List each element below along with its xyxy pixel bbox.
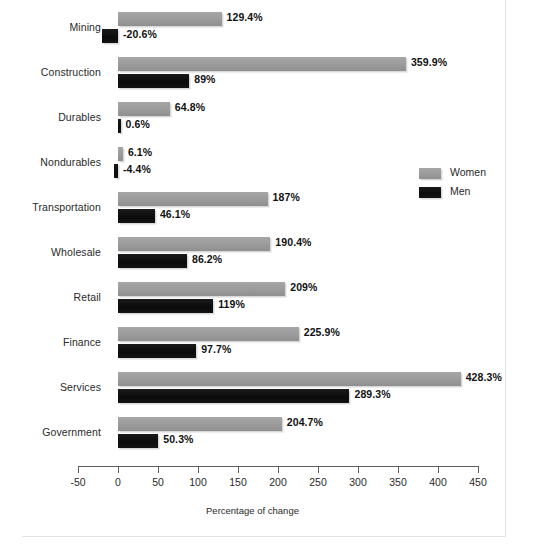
- bar-value-label: 129.4%: [227, 11, 263, 23]
- category-label: Construction: [0, 66, 101, 78]
- bar-value-label: 187%: [273, 191, 300, 203]
- chart-row: Finance225.9%97.7%: [0, 323, 505, 368]
- x-tick: [358, 466, 359, 473]
- category-label: Services: [0, 381, 101, 393]
- legend-label-women: Women: [450, 166, 486, 178]
- x-tick: [478, 466, 479, 473]
- category-label: Transportation: [0, 201, 101, 213]
- chart-row: Retail209%119%: [0, 278, 505, 323]
- chart-row: Durables64.8%0.6%: [0, 98, 505, 143]
- legend-label-men: Men: [450, 185, 470, 197]
- bar-women: [118, 192, 268, 206]
- x-tick-label: 400: [418, 476, 458, 488]
- bar-men: [118, 344, 196, 358]
- category-label: Government: [0, 426, 101, 438]
- bar-value-label: 204.7%: [287, 416, 323, 428]
- x-tick: [158, 466, 159, 473]
- bar-value-label: 97.7%: [201, 343, 231, 355]
- chart-figure: Mining129.4%-20.6%Construction359.9%89%D…: [0, 0, 533, 552]
- chart-row: Mining129.4%-20.6%: [0, 8, 505, 53]
- x-tick: [278, 466, 279, 473]
- category-label: Retail: [0, 291, 101, 303]
- bar-women: [118, 147, 123, 161]
- bar-men: [118, 119, 121, 133]
- x-tick: [398, 466, 399, 473]
- x-axis-title: Percentage of change: [0, 505, 505, 516]
- x-tick-label: 150: [218, 476, 258, 488]
- bar-women: [118, 102, 170, 116]
- bar-men: [118, 299, 213, 313]
- bar-value-label: 225.9%: [304, 326, 340, 338]
- bar-women: [118, 327, 299, 341]
- bar-value-label: 86.2%: [192, 253, 222, 265]
- legend-item-women: Women: [419, 165, 505, 184]
- bar-women: [118, 12, 222, 26]
- page-rule-bottom: [22, 536, 506, 537]
- bar-value-label: 289.3%: [354, 388, 390, 400]
- bar-value-label: -4.4%: [123, 163, 151, 175]
- bar-men: [118, 434, 158, 448]
- x-tick: [78, 466, 79, 473]
- x-tick-label: 250: [298, 476, 338, 488]
- legend-swatch-men: [419, 187, 441, 198]
- bar-value-label: 6.1%: [128, 146, 152, 158]
- bar-value-label: 50.3%: [163, 433, 193, 445]
- category-label: Wholesale: [0, 246, 101, 258]
- x-tick: [238, 466, 239, 473]
- category-label: Durables: [0, 111, 101, 123]
- bar-value-label: 428.3%: [466, 371, 502, 383]
- bar-women: [118, 417, 282, 431]
- bar-value-label: 359.9%: [411, 56, 447, 68]
- category-label: Nondurables: [0, 156, 101, 168]
- x-tick-label: 100: [178, 476, 218, 488]
- x-tick-label: 350: [378, 476, 418, 488]
- bar-women: [118, 372, 461, 386]
- bar-men: [102, 29, 118, 43]
- bar-women: [118, 237, 270, 251]
- x-tick: [118, 466, 119, 473]
- page-rule-right: [505, 0, 506, 537]
- legend-swatch-women: [419, 168, 441, 179]
- x-tick-label: 200: [258, 476, 298, 488]
- bar-value-label: 190.4%: [275, 236, 311, 248]
- legend-item-men: Men: [419, 184, 505, 203]
- bar-men: [118, 209, 155, 223]
- bar-value-label: 0.6%: [126, 118, 150, 130]
- bar-women: [118, 57, 406, 71]
- category-label: Finance: [0, 336, 101, 348]
- chart-row: Wholesale190.4%86.2%: [0, 233, 505, 278]
- x-tick: [318, 466, 319, 473]
- chart-legend: Women Men: [419, 165, 505, 203]
- x-tick-label: 450: [458, 476, 498, 488]
- bar-value-label: 64.8%: [175, 101, 205, 113]
- x-tick-label: 50: [138, 476, 178, 488]
- x-tick-label: 300: [338, 476, 378, 488]
- bar-value-label: -20.6%: [123, 28, 157, 40]
- bar-men: [118, 74, 189, 88]
- chart-row: Construction359.9%89%: [0, 53, 505, 98]
- bar-men: [118, 254, 187, 268]
- bar-men: [118, 389, 349, 403]
- category-label: Mining: [0, 21, 101, 33]
- x-tick: [198, 466, 199, 473]
- x-tick-label: 0: [98, 476, 138, 488]
- x-tick: [438, 466, 439, 473]
- bar-value-label: 119%: [218, 298, 245, 310]
- x-tick-label: -50: [58, 476, 98, 488]
- plot-area: Mining129.4%-20.6%Construction359.9%89%D…: [0, 0, 505, 470]
- bar-value-label: 46.1%: [160, 208, 190, 220]
- chart-row: Services428.3%289.3%: [0, 368, 505, 413]
- bar-men: [114, 164, 118, 178]
- chart-row: Government204.7%50.3%: [0, 413, 505, 458]
- bar-women: [118, 282, 285, 296]
- bar-value-label: 209%: [290, 281, 317, 293]
- bar-value-label: 89%: [194, 73, 215, 85]
